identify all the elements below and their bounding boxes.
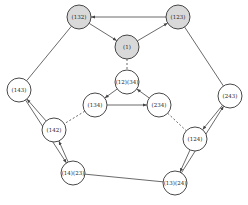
edge-n234-n12_34 bbox=[137, 89, 150, 98]
node-label: (243) bbox=[223, 93, 238, 99]
node-n13_24: (13)(24) bbox=[163, 171, 187, 195]
edge-n243-n124 bbox=[203, 105, 223, 129]
edge-n123-n243 bbox=[185, 27, 224, 86]
edge-n132-n143 bbox=[27, 26, 72, 80]
node-label: (1) bbox=[123, 44, 131, 50]
edge-n234-n124 bbox=[168, 113, 187, 131]
node-label: (13)(24) bbox=[164, 180, 187, 186]
node-label: (124) bbox=[188, 136, 203, 142]
edge-n132-n1 bbox=[89, 23, 117, 40]
node-label: (234) bbox=[152, 102, 167, 108]
edge-n1-n123 bbox=[137, 23, 167, 41]
node-n123: (123) bbox=[166, 5, 190, 29]
node-label: (142) bbox=[47, 127, 62, 133]
node-n234: (234) bbox=[147, 93, 171, 117]
node-n124: (124) bbox=[183, 127, 207, 151]
cayley-graph: (132)(123)(1)(12)(34)(134)(234)(143)(243… bbox=[0, 0, 248, 205]
node-n12_34: (12)(34) bbox=[115, 70, 139, 94]
nodes-layer: (132)(123)(1)(12)(34)(134)(234)(143)(243… bbox=[7, 5, 242, 195]
node-n1: (1) bbox=[115, 35, 139, 59]
node-label: (12)(34) bbox=[116, 79, 139, 85]
node-n142: (142) bbox=[42, 118, 66, 142]
edge-n14_23-n13_24 bbox=[85, 174, 163, 182]
node-n134: (134) bbox=[83, 93, 107, 117]
node-label: (143) bbox=[12, 87, 27, 93]
edge-n12_34-n134 bbox=[105, 89, 118, 98]
node-label: (123) bbox=[171, 14, 186, 20]
edge-n134-n142 bbox=[64, 111, 85, 124]
node-label: (132) bbox=[72, 14, 87, 20]
node-n132: (132) bbox=[67, 5, 91, 29]
node-n14_23: (14)(23) bbox=[61, 161, 85, 185]
edge-n142-n143 bbox=[27, 99, 46, 121]
node-n143: (143) bbox=[7, 78, 31, 102]
node-label: (14)(23) bbox=[62, 170, 85, 176]
node-n243: (243) bbox=[218, 84, 242, 108]
node-label: (134) bbox=[88, 102, 103, 108]
